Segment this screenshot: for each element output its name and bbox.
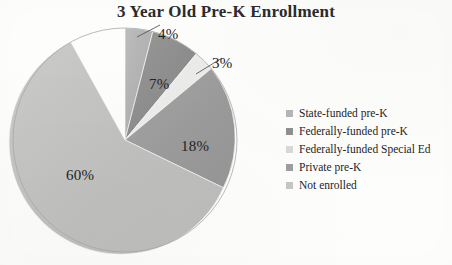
legend-item-private-pre-k: Private pre-K — [286, 158, 452, 176]
legend-item-federally-funded-pre-k: Federally-funded pre-K — [286, 122, 452, 140]
legend-item-state-funded-pre-k: State-funded pre-K — [286, 104, 452, 122]
chart-canvas: 3 Year Old Pre-K Enrollment — [0, 0, 452, 265]
legend-label: State-funded pre-K — [299, 107, 387, 120]
legend-swatch-icon — [286, 182, 293, 189]
legend-label: Federally-funded pre-K — [299, 125, 408, 138]
legend-label: Private pre-K — [299, 161, 361, 174]
slice-value-label-federally-funded-pre-k: 7% — [149, 76, 169, 93]
slice-value-label-federally-funded-special-ed: 3% — [212, 55, 232, 72]
legend-swatch-icon — [286, 164, 293, 171]
legend-label: Federally-funded Special Ed — [299, 143, 431, 156]
slice-value-label-state-funded-pre-k: 4% — [158, 26, 178, 43]
legend-item-not-enrolled: Not enrolled — [286, 176, 452, 194]
pie-chart: 4% 3% 7% 18% 60% — [0, 0, 275, 265]
legend-label: Not enrolled — [299, 179, 357, 192]
legend-swatch-icon — [286, 146, 293, 153]
pie-svg — [0, 0, 275, 265]
legend-swatch-icon — [286, 110, 293, 117]
slice-value-label-not-enrolled: 60% — [66, 167, 94, 184]
legend-item-federally-funded-special-ed: Federally-funded Special Ed — [286, 140, 452, 158]
chart-legend: State-funded pre-K Federally-funded pre-… — [286, 104, 452, 194]
legend-swatch-icon — [286, 128, 293, 135]
slice-value-label-private-pre-k: 18% — [181, 138, 209, 155]
